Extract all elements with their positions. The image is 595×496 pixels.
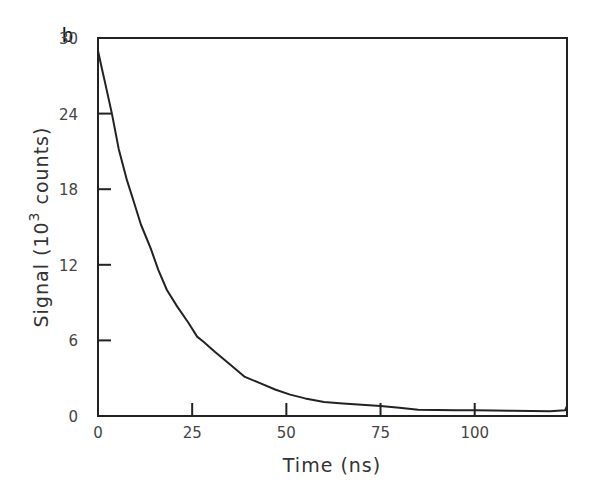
x-axis: 0255075100 bbox=[93, 403, 489, 442]
y-tick-label: 12 bbox=[59, 257, 78, 275]
x-tick-label: 100 bbox=[460, 424, 489, 442]
x-tick-label: 0 bbox=[93, 424, 103, 442]
y-tick-label: 30 bbox=[59, 30, 78, 48]
y-tick-label: 18 bbox=[59, 181, 78, 199]
y-tick-label: 24 bbox=[59, 106, 78, 124]
x-tick-label: 50 bbox=[277, 424, 296, 442]
x-tick-label: 75 bbox=[371, 424, 390, 442]
y-axis-label: Signal (103 counts) bbox=[26, 127, 52, 328]
x-axis-label: Time (ns) bbox=[282, 454, 381, 476]
y-tick-label: 0 bbox=[68, 408, 78, 426]
decay-curve bbox=[98, 51, 567, 412]
y-tick-label: 6 bbox=[68, 332, 78, 350]
decay-chart: 0612182430 0255075100 Time (ns) Signal (… bbox=[0, 0, 595, 496]
series-layer bbox=[98, 51, 567, 412]
x-tick-label: 25 bbox=[183, 424, 202, 442]
plot-border bbox=[98, 38, 567, 416]
y-axis: 0612182430 bbox=[59, 30, 111, 426]
plot-frame bbox=[98, 38, 567, 416]
